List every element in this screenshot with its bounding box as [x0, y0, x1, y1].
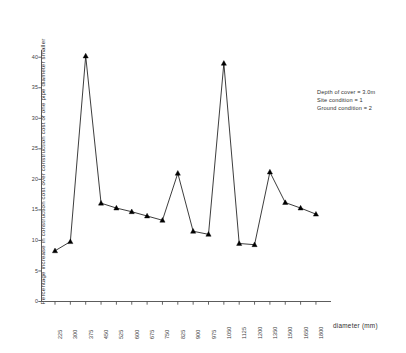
data-point-marker — [267, 169, 272, 174]
data-point-marker — [68, 239, 73, 244]
data-point-marker — [237, 241, 242, 246]
data-point-marker — [83, 53, 88, 58]
data-point-marker — [283, 200, 288, 205]
data-point-marker — [221, 61, 226, 66]
plot-area — [0, 0, 406, 353]
data-point-marker — [98, 200, 103, 205]
data-point-marker — [52, 248, 57, 253]
data-point-marker — [191, 229, 196, 234]
data-point-marker — [175, 171, 180, 176]
chart-figure: Percentage increase in construction cost… — [0, 0, 406, 353]
